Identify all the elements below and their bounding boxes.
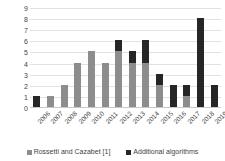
bar-column [85, 8, 99, 107]
x-axis-label-column: 2009 [71, 118, 85, 148]
bar-column [153, 8, 167, 107]
bar-column [71, 8, 85, 107]
bar-stack [115, 40, 122, 107]
x-axis-labels: 2006200720082009201020112012201320142015… [30, 118, 221, 148]
bar-column [44, 8, 58, 107]
x-axis-label-column: 2017 [180, 118, 194, 148]
y-axis-tick: 6 [14, 38, 28, 45]
bar-stack [142, 40, 149, 107]
x-axis-line [30, 107, 221, 108]
bar-segment-additional-algorithms [142, 40, 149, 62]
x-axis-label-column: 2008 [57, 118, 71, 148]
bar-stack [197, 18, 204, 107]
x-axis-label-column: 2011 [98, 118, 112, 148]
bar-column [125, 8, 139, 107]
chart-legend: Rossetti and Cazabet [1] Additional algo… [0, 146, 225, 158]
bar-column [57, 8, 71, 107]
bar-column [30, 8, 44, 107]
bar-column [207, 8, 221, 107]
bar-column [139, 8, 153, 107]
y-axis-tick: 4 [14, 60, 28, 67]
stacked-bar-chart: 9 8 7 6 5 4 3 2 1 0 20062007200820092010… [0, 0, 225, 161]
bar-segment-rossetti-cazabet [47, 96, 54, 107]
x-axis-label-column: 2012 [112, 118, 126, 148]
x-axis-label: 2019 [213, 110, 225, 125]
y-axis-tick: 8 [14, 16, 28, 23]
bar-segment-rossetti-cazabet [142, 63, 149, 107]
bar-column [194, 8, 208, 107]
bar-stack [129, 51, 136, 107]
bar-segment-rossetti-cazabet [61, 85, 68, 107]
x-axis-label-column: 2007 [44, 118, 58, 148]
y-axis-tick: 5 [14, 49, 28, 56]
x-axis-label-column: 2006 [30, 118, 44, 148]
bar-stack [170, 85, 177, 107]
bar-segment-rossetti-cazabet [102, 63, 109, 107]
legend-item-primary: Rossetti and Cazabet [1] [27, 148, 111, 156]
x-axis-label-column: 2018 [194, 118, 208, 148]
legend-swatch-icon [27, 150, 32, 155]
x-axis-label-column: 2019 [207, 118, 221, 148]
x-axis-label-column: 2010 [85, 118, 99, 148]
bar-segment-rossetti-cazabet [183, 96, 190, 107]
bar-column [98, 8, 112, 107]
bar-segment-rossetti-cazabet [88, 51, 95, 107]
bar-stack [183, 85, 190, 107]
bar-segment-additional-algorithms [183, 85, 190, 96]
bar-segment-additional-algorithms [170, 85, 177, 107]
bar-stack [156, 74, 163, 107]
bar-segment-rossetti-cazabet [74, 63, 81, 107]
bar-stack [61, 85, 68, 107]
bar-stack [47, 96, 54, 107]
x-axis-label-column: 2014 [139, 118, 153, 148]
y-axis-tick: 3 [14, 71, 28, 78]
bar-stack [33, 96, 40, 107]
x-axis-label-column: 2013 [125, 118, 139, 148]
bar-stack [102, 63, 109, 107]
bar-segment-additional-algorithms [156, 74, 163, 85]
bar-series-group [30, 8, 221, 107]
legend-item-secondary: Additional algorithms [126, 148, 198, 156]
bar-segment-rossetti-cazabet [115, 51, 122, 107]
y-axis-tick: 7 [14, 27, 28, 34]
x-axis-label-column: 2016 [166, 118, 180, 148]
bar-segment-additional-algorithms [211, 85, 218, 107]
bar-segment-additional-algorithms [197, 18, 204, 107]
bar-segment-additional-algorithms [33, 96, 40, 107]
legend-label: Additional algorithms [133, 148, 198, 156]
y-axis-tick: 9 [14, 5, 28, 12]
bar-stack [211, 85, 218, 107]
y-axis-tick: 1 [14, 93, 28, 100]
bar-segment-additional-algorithms [129, 51, 136, 62]
grid-area [30, 8, 221, 108]
bar-segment-rossetti-cazabet [129, 63, 136, 107]
bar-column [166, 8, 180, 107]
bar-segment-additional-algorithms [115, 40, 122, 51]
plot-area: 9 8 7 6 5 4 3 2 1 0 20062007200820092010… [0, 8, 225, 116]
y-axis-tick: 2 [14, 82, 28, 89]
bar-stack [74, 63, 81, 107]
y-axis-tick: 0 [14, 105, 28, 112]
legend-swatch-icon [126, 150, 131, 155]
x-axis-label-column: 2015 [153, 118, 167, 148]
bar-column [180, 8, 194, 107]
bar-segment-rossetti-cazabet [156, 85, 163, 107]
legend-label: Rossetti and Cazabet [1] [34, 148, 111, 156]
bar-column [112, 8, 126, 107]
bar-stack [88, 51, 95, 107]
y-axis: 9 8 7 6 5 4 3 2 1 0 [14, 8, 28, 108]
